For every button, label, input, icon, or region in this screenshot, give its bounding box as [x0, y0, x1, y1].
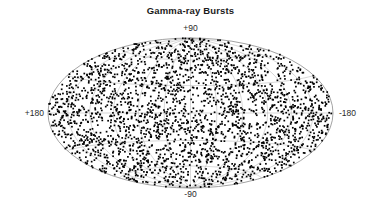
skymap-projection [0, 0, 381, 215]
sky-map-figure: Gamma-ray Bursts +90 -90 +180 -180 [0, 0, 381, 215]
